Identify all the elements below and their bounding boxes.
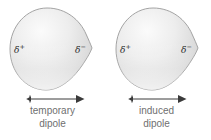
electron-cloud-induced: δ+ δ− — [104, 0, 209, 100]
delta-positive-label-temporary: δ+ — [14, 44, 25, 55]
panel-temporary-dipole: δ+ δ− temporary dipole — [0, 0, 105, 140]
caption-induced-line1: induced — [104, 104, 209, 117]
delta-positive-label-induced: δ+ — [120, 44, 131, 55]
electron-cloud-temporary: δ+ δ− — [0, 0, 105, 100]
caption-temporary-line1: temporary — [0, 104, 105, 117]
dipole-diagram: δ+ δ− temporary dipole — [0, 0, 211, 140]
caption-temporary-dipole: temporary dipole — [0, 104, 105, 130]
caption-induced-line2: dipole — [104, 117, 209, 130]
caption-temporary-line2: dipole — [0, 117, 105, 130]
panel-induced-dipole: δ+ δ− induced dipole — [104, 0, 209, 140]
delta-negative-label-temporary: δ− — [75, 44, 86, 55]
caption-induced-dipole: induced dipole — [104, 104, 209, 130]
delta-negative-label-induced: δ− — [181, 44, 192, 55]
